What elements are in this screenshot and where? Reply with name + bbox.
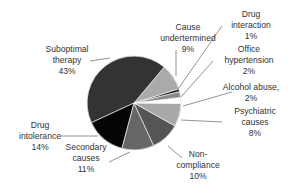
slice-label-line: therapy <box>53 55 82 65</box>
slice-label: Drugintolerance14% <box>19 120 61 152</box>
leader-line <box>90 58 110 61</box>
slice-label-line: 8% <box>249 128 262 138</box>
slice-label: Officehypertension2% <box>224 44 273 76</box>
slice-label-line: 1% <box>245 31 258 41</box>
slice-label-line: undertermined <box>160 33 216 43</box>
slice-label-line: 2% <box>243 66 256 76</box>
pie-slices <box>87 56 181 150</box>
slice-label-line: interaction <box>231 20 271 30</box>
slice-label: Non-compliance10% <box>176 149 220 181</box>
slice-label-line: Drug <box>242 9 261 19</box>
slice-label: Causeundertermined9% <box>160 22 216 54</box>
leader-line <box>181 120 222 122</box>
slice-label: Psychiatriccauses8% <box>234 106 276 138</box>
slice-label: Secondarycauses11% <box>65 142 107 174</box>
leader-line <box>168 146 182 158</box>
slice-label-line: 9% <box>182 44 195 54</box>
slice-label-line: 14% <box>31 142 49 152</box>
slice-label: Druginteraction1% <box>231 9 271 41</box>
slice-label-line: causes <box>72 153 99 163</box>
slice-label-line: intolerance <box>19 131 61 141</box>
leader-line <box>109 152 130 162</box>
slice-label-line: Alcohol abuse, <box>223 82 279 92</box>
slice-label-line: Suboptimal <box>46 44 89 54</box>
slice-label: Suboptimaltherapy43% <box>46 44 89 76</box>
slice-label-line: causes <box>241 117 268 127</box>
slice-label-line: Drug <box>31 120 50 130</box>
slice-label-line: 43% <box>58 66 76 76</box>
slice-label-line: Non- <box>189 149 208 159</box>
slice-label-line: 11% <box>78 164 95 174</box>
slice-label-line: Office <box>238 44 261 54</box>
pie-chart: Druginteraction1%Causeundertermined9%Sub… <box>0 0 305 187</box>
leader-line <box>181 61 213 97</box>
slice-label-line: 10% <box>189 171 207 181</box>
slice-label-line: Psychiatric <box>234 106 276 116</box>
slice-label-line: hypertension <box>224 55 273 65</box>
slice-label-line: compliance <box>176 160 220 170</box>
leader-line <box>183 92 232 106</box>
slice-label-line: Cause <box>176 22 201 32</box>
slice-label-line: Secondary <box>65 142 107 152</box>
slice-label-line: 2% <box>245 93 258 103</box>
